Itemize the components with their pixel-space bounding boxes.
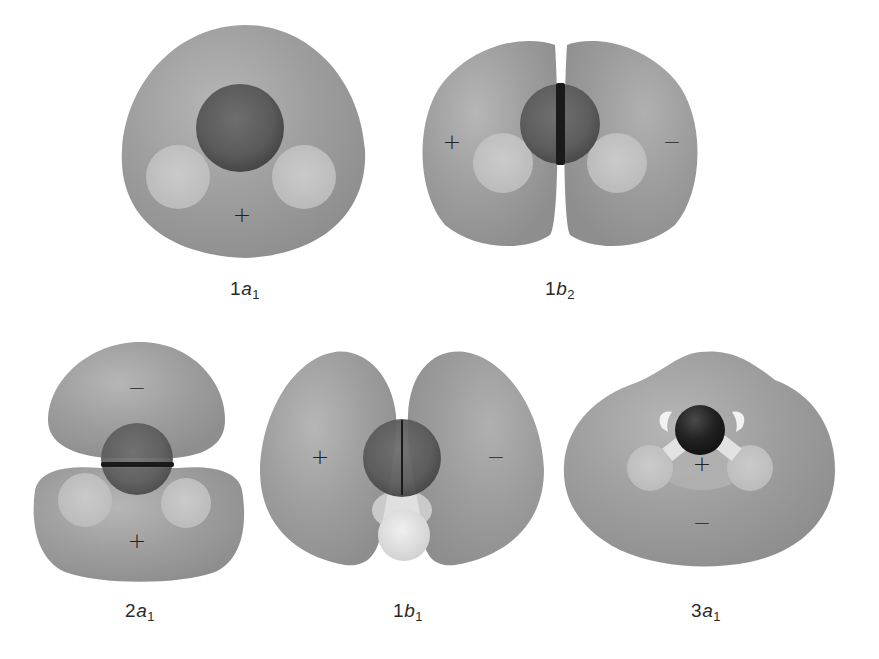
- orbital-panel-1b2: + − 1b2: [400, 0, 720, 300]
- hydrogen-atom-right: [161, 478, 211, 528]
- orbital-label-2a1: 2a1: [110, 600, 170, 622]
- orbital-panel-3a1: + − 3a1: [550, 340, 879, 659]
- phase-sign-positive: +: [308, 446, 332, 468]
- phase-sign-positive: +: [125, 530, 149, 552]
- hydrogen-atom-left: [473, 133, 533, 193]
- orbital-panel-2a1: − + 2a1: [20, 340, 260, 659]
- hydrogen-atom-right: [272, 145, 336, 209]
- oxygen-atom: [196, 84, 284, 172]
- orbital-label-1b1: 1b1: [378, 600, 438, 622]
- hydrogen-atom: [378, 509, 430, 561]
- orbital-1a1-graphic: [110, 0, 380, 300]
- orbital-label-3a1: 3a1: [676, 600, 736, 622]
- phase-sign-negative: −: [690, 512, 714, 534]
- orbital-label-1a1: 1a1: [215, 278, 275, 300]
- oxygen-atom: [675, 405, 725, 455]
- nodal-plane: [101, 462, 174, 467]
- phase-sign-negative: −: [484, 446, 508, 468]
- hydrogen-atom-right: [587, 133, 647, 193]
- water-molecular-orbitals-figure: + 1a1 + − 1b2 − +: [0, 0, 879, 659]
- phase-sign-positive: +: [230, 204, 254, 226]
- nodal-plane: [556, 83, 565, 165]
- phase-sign-positive: +: [690, 453, 714, 475]
- phase-sign-positive: +: [440, 131, 464, 153]
- oxygen-atom: [101, 423, 173, 495]
- hydrogen-atom-left: [58, 473, 112, 527]
- phase-sign-negative: −: [660, 131, 684, 153]
- hydrogen-atom-left: [146, 145, 210, 209]
- phase-sign-negative: −: [125, 377, 149, 399]
- orbital-panel-1b1: + − 1b1: [250, 340, 550, 659]
- orbital-label-1b2: 1b2: [530, 278, 590, 300]
- orbital-panel-1a1: + 1a1: [110, 0, 380, 300]
